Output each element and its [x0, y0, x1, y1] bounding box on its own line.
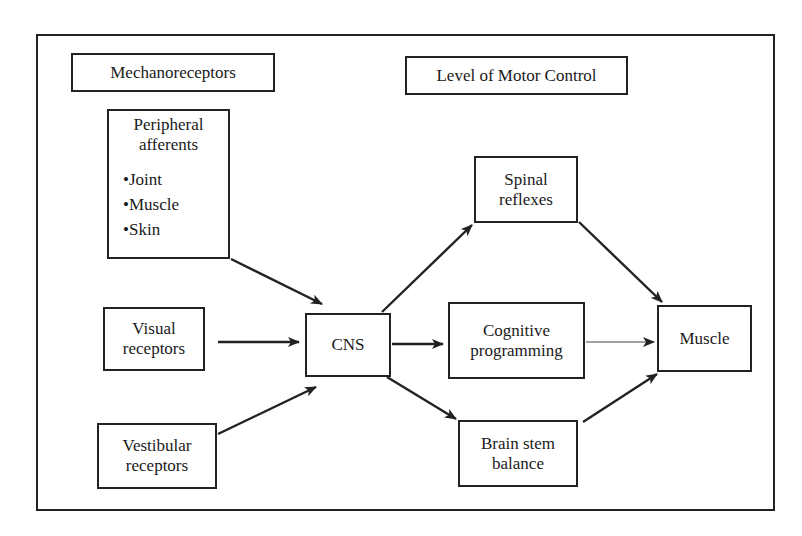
node-muscle: Muscle — [657, 305, 752, 372]
peripheral-bullet-list: •Joint •Muscle •Skin — [109, 167, 179, 242]
bullet-joint: •Joint — [123, 167, 179, 192]
node-peripheral-afferents: Peripheral afferents •Joint •Muscle •Ski… — [107, 109, 230, 259]
arrow-spinal-to-muscle — [579, 222, 662, 302]
arrow-cns-to-brainstem — [387, 377, 456, 419]
cognitive-line-1: Cognitive — [483, 321, 550, 341]
node-cns: CNS — [305, 313, 391, 377]
peripheral-title-2: afferents — [139, 135, 198, 155]
header-mechanoreceptors-label: Mechanoreceptors — [110, 63, 236, 83]
cognitive-line-2: programming — [470, 341, 563, 361]
brainstem-line-1: Brain stem — [481, 434, 555, 454]
visual-line-1: Visual — [132, 319, 175, 339]
bullet-muscle: •Muscle — [123, 192, 179, 217]
arrow-vestibular-to-cns — [218, 387, 316, 434]
visual-line-2: receptors — [123, 339, 185, 359]
arrow-peripheral-to-cns — [231, 259, 322, 304]
vestibular-line-2: receptors — [126, 456, 188, 476]
brainstem-line-2: balance — [492, 454, 544, 474]
peripheral-title-1: Peripheral — [134, 115, 204, 135]
header-mechanoreceptors: Mechanoreceptors — [71, 53, 275, 92]
muscle-label: Muscle — [679, 329, 729, 349]
node-visual-receptors: Visual receptors — [103, 307, 205, 371]
vestibular-line-1: Vestibular — [123, 436, 192, 456]
spinal-line-2: reflexes — [499, 190, 553, 210]
cns-label: CNS — [331, 335, 364, 355]
header-level-of-motor-control: Level of Motor Control — [405, 56, 628, 95]
bullet-skin: •Skin — [123, 217, 179, 242]
spinal-line-1: Spinal — [504, 170, 547, 190]
node-spinal-reflexes: Spinal reflexes — [474, 156, 578, 223]
node-vestibular-receptors: Vestibular receptors — [97, 423, 217, 489]
node-brain-stem-balance: Brain stem balance — [458, 420, 578, 487]
node-cognitive-programming: Cognitive programming — [448, 302, 585, 379]
arrow-brainstem-to-muscle — [583, 374, 657, 422]
arrow-cns-to-spinal — [382, 225, 472, 312]
header-level-label: Level of Motor Control — [436, 66, 596, 86]
